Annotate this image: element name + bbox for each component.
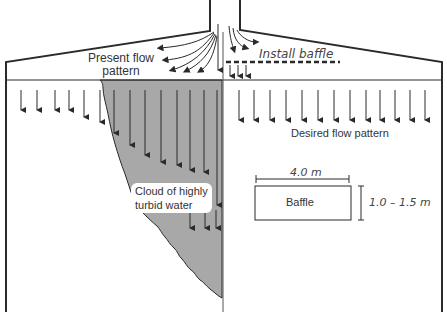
present-flow-label: Present flow pattern bbox=[88, 52, 154, 78]
cloud-label-line2: turbid water bbox=[135, 198, 208, 212]
baffle-label: Baffle bbox=[286, 196, 314, 208]
baffle-width-label: 4.0 m bbox=[290, 166, 322, 179]
install-baffle-label: Install baffle bbox=[259, 47, 333, 61]
height-dimension bbox=[358, 186, 364, 220]
turbid-cloud-label: Cloud of highly turbid water bbox=[131, 183, 212, 213]
desired-flow-arrows bbox=[239, 90, 425, 120]
baffle-height-label: 1.0 – 1.5 m bbox=[369, 196, 431, 209]
present-flow-line2: pattern bbox=[88, 65, 154, 78]
tank-diagram bbox=[0, 0, 447, 312]
tank-outline bbox=[6, 0, 442, 312]
desired-flow-label: Desired flow pattern bbox=[291, 127, 389, 139]
cloud-label-line1: Cloud of highly bbox=[135, 184, 208, 198]
